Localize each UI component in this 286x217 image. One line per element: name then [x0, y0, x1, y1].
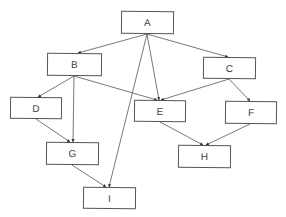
- edge-d-to-g: [36, 119, 70, 142]
- edge-g-to-i: [72, 165, 106, 187]
- node-b: B: [47, 53, 102, 77]
- node-label: C: [226, 62, 233, 73]
- node-label: D: [32, 102, 39, 113]
- node-label: A: [144, 17, 151, 28]
- edge-f-to-h: [206, 124, 250, 145]
- edge-b-to-g: [73, 76, 74, 142]
- node-label: G: [69, 148, 77, 159]
- edge-c-to-e: [161, 79, 229, 100]
- node-f: F: [225, 101, 277, 125]
- node-e: E: [134, 100, 186, 123]
- node-a: A: [121, 11, 174, 35]
- node-label: F: [248, 107, 254, 118]
- edge-b-to-e: [74, 76, 157, 100]
- edge-c-to-f: [229, 79, 250, 101]
- edge-a-to-b: [78, 34, 147, 53]
- diagram-canvas: ABCDEFGHI: [0, 0, 286, 217]
- node-label: B: [71, 59, 78, 70]
- node-c: C: [203, 57, 256, 80]
- node-label: E: [157, 105, 164, 116]
- node-d: D: [10, 97, 62, 120]
- node-h: H: [178, 145, 231, 169]
- edge-a-to-c: [147, 34, 228, 57]
- node-g: G: [46, 142, 99, 166]
- edge-b-to-d: [38, 76, 74, 97]
- edge-a-to-e: [147, 34, 159, 100]
- node-label: H: [201, 151, 208, 162]
- node-i: I: [83, 187, 136, 210]
- node-label: I: [108, 192, 111, 203]
- edge-e-to-h: [160, 122, 203, 145]
